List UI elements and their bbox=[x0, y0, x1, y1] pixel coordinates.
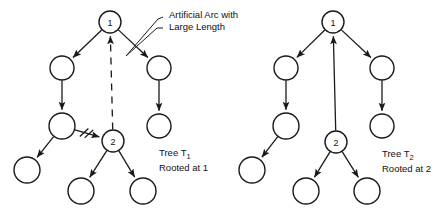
tree-arc bbox=[341, 30, 371, 58]
tree-t2-caption: Tree T2 Rooted at 2 bbox=[382, 148, 431, 175]
node-circle bbox=[354, 178, 380, 204]
leader-line-upper bbox=[126, 17, 163, 56]
node-circle bbox=[273, 113, 299, 139]
node-circle bbox=[50, 56, 74, 80]
node-circle bbox=[370, 114, 394, 138]
node-label: 1 bbox=[330, 18, 335, 28]
node-circle bbox=[239, 157, 265, 183]
tree-arc bbox=[262, 137, 278, 157]
artificial-arc-annotation-line1: Artificial Arc with bbox=[169, 9, 238, 21]
tree-t1-nodes: 12 bbox=[14, 11, 171, 204]
node-circle bbox=[370, 56, 394, 80]
artificial-arc bbox=[333, 36, 335, 130]
node-circle bbox=[147, 114, 171, 138]
node-circle bbox=[68, 178, 94, 204]
node-circle bbox=[147, 56, 171, 80]
artificial-arc-annotation: Artificial Arc with Large Length bbox=[169, 9, 238, 32]
diagram-svg: 12 12 bbox=[0, 0, 434, 214]
annotation-leader-lines bbox=[126, 17, 163, 56]
tree-arc bbox=[297, 30, 325, 57]
node-circle bbox=[14, 157, 40, 183]
node-label: 2 bbox=[333, 138, 338, 148]
tree-arc bbox=[90, 151, 107, 178]
tree-t1-caption: Tree T1 Rooted at 1 bbox=[159, 147, 208, 174]
tree-t2-caption-prefix: Tree T bbox=[382, 148, 409, 159]
tree-t1-caption-line1: Tree T1 bbox=[159, 147, 208, 162]
tree-t1-arcs bbox=[37, 30, 159, 177]
tree-t1-caption-prefix: Tree T bbox=[159, 147, 186, 158]
tree-arc bbox=[118, 30, 148, 58]
tree-t1-caption-subscript: 1 bbox=[186, 152, 190, 161]
figure-canvas: 12 12 Artificial Arc with Large Length T… bbox=[0, 0, 434, 214]
tree-t2-caption-line1: Tree T2 bbox=[382, 148, 431, 163]
node-label: 2 bbox=[110, 137, 115, 147]
tree-arc bbox=[73, 30, 102, 58]
tree-t2-arcs bbox=[262, 30, 382, 177]
node-circle bbox=[130, 178, 156, 204]
tree-t2-caption-line2: Rooted at 2 bbox=[382, 163, 431, 175]
tree-arc bbox=[342, 152, 358, 178]
tree-t2-caption-subscript: 2 bbox=[409, 153, 413, 162]
artificial-arc-annotation-line2: Large Length bbox=[169, 21, 238, 33]
node-circle bbox=[274, 56, 298, 80]
tree-arc bbox=[37, 137, 54, 158]
artificial-arc bbox=[110, 36, 112, 129]
tree-arc bbox=[119, 151, 135, 177]
node-label: 1 bbox=[107, 18, 112, 28]
node-circle bbox=[293, 178, 319, 204]
tree-arc bbox=[314, 152, 330, 177]
tree-t1-caption-line2: Rooted at 1 bbox=[159, 162, 208, 174]
node-circle bbox=[49, 113, 75, 139]
